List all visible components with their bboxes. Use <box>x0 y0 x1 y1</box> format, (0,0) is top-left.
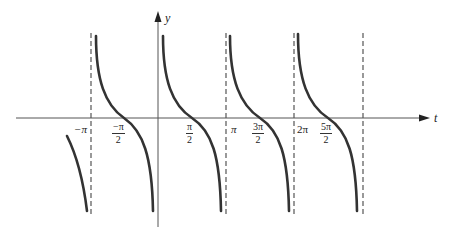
tick-five-half-pi: 5π 2 <box>320 122 332 145</box>
t-axis-arrow-icon <box>419 115 430 122</box>
y-axis-label: y <box>165 12 170 24</box>
tick-neg-pi: −π <box>74 124 87 135</box>
cotangent-plot <box>0 0 452 230</box>
tick-pi: π <box>231 124 237 135</box>
cot-curves <box>67 34 357 211</box>
y-axis-arrow-icon <box>155 11 162 22</box>
tick-three-half-pi: 3π 2 <box>252 122 264 145</box>
t-axis-label: t <box>434 112 437 124</box>
tick-half-pi: π 2 <box>186 122 193 145</box>
branch-tail <box>67 136 87 211</box>
tick-neg-half-pi: −π 2 <box>112 122 125 145</box>
tick-2pi: 2π <box>297 124 308 135</box>
